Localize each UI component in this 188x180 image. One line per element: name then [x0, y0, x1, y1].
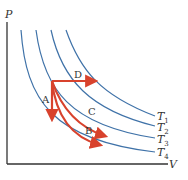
p-axis-label: P — [4, 8, 13, 21]
process-label-d: D — [74, 69, 82, 80]
process-label-c: C — [88, 106, 96, 117]
isotherm-label-t4: T4 — [157, 146, 169, 161]
process-c-arrow — [52, 81, 105, 136]
v-axis-label: V — [169, 158, 178, 171]
process-label-b: B — [85, 125, 92, 136]
pv-diagram: P V T1 T2 T3 T4 D A C B — [0, 0, 188, 180]
isotherm-t2 — [51, 30, 155, 126]
process-label-a: A — [41, 94, 50, 105]
